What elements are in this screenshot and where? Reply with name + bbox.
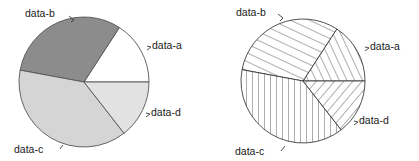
pie-label-d-shaded: data-d xyxy=(151,106,181,118)
leader-line-b-hatched xyxy=(278,14,283,21)
pie-charts-svg: data-a data-b data-c data-d data-a data-… xyxy=(0,0,419,161)
pie-label-b-shaded: data-b xyxy=(25,7,55,19)
pie-label-d-hatched: data-d xyxy=(359,114,389,126)
pie-label-c-hatched: data-c xyxy=(235,145,264,157)
pie-label-c-shaded: data-c xyxy=(14,143,43,155)
figure-canvas: data-a data-b data-c data-d data-a data-… xyxy=(0,0,419,161)
leader-line-a-hatched xyxy=(365,47,369,51)
leader-line-d-hatched xyxy=(354,121,358,125)
leader-line-a-shaded xyxy=(147,46,151,50)
pie-chart-shaded: data-a data-b data-c data-d xyxy=(14,7,182,155)
pie-label-b-hatched: data-b xyxy=(236,6,266,18)
pie-chart-hatched: data-a data-b data-c data-d xyxy=(235,6,400,157)
leader-line-d-shaded xyxy=(146,113,150,117)
leader-line-c-shaded xyxy=(60,145,63,149)
leader-line-c-hatched xyxy=(281,146,285,151)
pie-label-a-shaded: data-a xyxy=(152,39,182,51)
pie-label-a-hatched: data-a xyxy=(370,40,400,52)
